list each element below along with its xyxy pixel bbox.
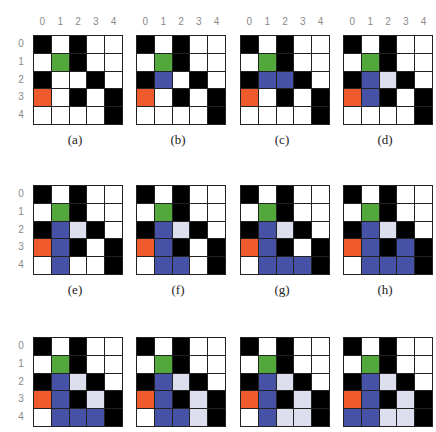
open-cell bbox=[259, 36, 276, 53]
open-cell bbox=[87, 356, 104, 373]
open-cell bbox=[294, 36, 311, 53]
row-label: 1 bbox=[15, 358, 27, 369]
column-label: 3 bbox=[190, 16, 207, 27]
visited-cell bbox=[362, 409, 379, 426]
visited-cell bbox=[87, 409, 104, 426]
open-cell bbox=[362, 338, 379, 355]
wall-cell bbox=[173, 239, 190, 256]
grid-panel-e bbox=[33, 185, 123, 275]
open-cell bbox=[52, 186, 69, 203]
wall-cell bbox=[87, 72, 104, 89]
row-label: 2 bbox=[15, 376, 27, 387]
open-cell bbox=[52, 89, 69, 106]
wall-cell bbox=[173, 186, 190, 203]
panel-caption: (f) bbox=[136, 282, 220, 298]
start-cell bbox=[259, 356, 276, 373]
goal-cell bbox=[241, 239, 258, 256]
wall-cell bbox=[415, 107, 432, 124]
grid-panel-h bbox=[343, 185, 433, 275]
open-cell bbox=[87, 36, 104, 53]
column-label: 1 bbox=[52, 16, 69, 27]
wall-cell bbox=[380, 186, 397, 203]
open-cell bbox=[190, 257, 207, 274]
column-label: 4 bbox=[208, 16, 225, 27]
open-cell bbox=[87, 186, 104, 203]
wall-cell bbox=[173, 356, 190, 373]
column-label: 3 bbox=[294, 16, 311, 27]
row-label: 2 bbox=[15, 74, 27, 85]
wall-cell bbox=[34, 72, 51, 89]
grid-panel-d bbox=[343, 35, 433, 125]
visited-cell bbox=[259, 409, 276, 426]
frontier-cell bbox=[380, 72, 397, 89]
start-cell bbox=[52, 356, 69, 373]
panel-caption: (c) bbox=[240, 132, 324, 148]
wall-cell bbox=[397, 222, 414, 239]
wall-cell bbox=[415, 239, 432, 256]
wall-cell bbox=[70, 186, 87, 203]
start-cell bbox=[259, 54, 276, 71]
wall-cell bbox=[105, 107, 122, 124]
wall-cell bbox=[380, 54, 397, 71]
open-cell bbox=[105, 72, 122, 89]
open-cell bbox=[208, 72, 225, 89]
open-cell bbox=[294, 54, 311, 71]
open-cell bbox=[87, 107, 104, 124]
open-cell bbox=[415, 204, 432, 221]
open-cell bbox=[312, 222, 329, 239]
open-cell bbox=[241, 204, 258, 221]
wall-cell bbox=[344, 222, 361, 239]
wall-cell bbox=[344, 72, 361, 89]
wall-cell bbox=[70, 338, 87, 355]
wall-cell bbox=[190, 222, 207, 239]
wall-cell bbox=[105, 89, 122, 106]
visited-cell bbox=[155, 409, 172, 426]
start-cell bbox=[362, 356, 379, 373]
wall-cell bbox=[415, 89, 432, 106]
wall-cell bbox=[105, 391, 122, 408]
open-cell bbox=[312, 374, 329, 391]
open-cell bbox=[259, 186, 276, 203]
wall-cell bbox=[208, 107, 225, 124]
column-label: 0 bbox=[241, 16, 258, 27]
wall-cell bbox=[105, 239, 122, 256]
goal-cell bbox=[137, 239, 154, 256]
frontier-cell bbox=[87, 391, 104, 408]
wall-cell bbox=[34, 36, 51, 53]
open-cell bbox=[52, 338, 69, 355]
visited-cell bbox=[155, 391, 172, 408]
open-cell bbox=[397, 36, 414, 53]
panel-caption: (e) bbox=[33, 282, 117, 298]
visited-cell bbox=[294, 257, 311, 274]
frontier-cell bbox=[277, 374, 294, 391]
open-cell bbox=[70, 257, 87, 274]
row-label: 1 bbox=[15, 206, 27, 217]
frontier-cell bbox=[173, 374, 190, 391]
open-cell bbox=[415, 54, 432, 71]
wall-cell bbox=[415, 391, 432, 408]
panel-caption: (h) bbox=[343, 282, 427, 298]
open-cell bbox=[294, 356, 311, 373]
visited-cell bbox=[397, 239, 414, 256]
wall-cell bbox=[415, 257, 432, 274]
goal-cell bbox=[241, 89, 258, 106]
wall-cell bbox=[208, 391, 225, 408]
goal-cell bbox=[34, 89, 51, 106]
open-cell bbox=[190, 36, 207, 53]
open-cell bbox=[294, 204, 311, 221]
open-cell bbox=[87, 89, 104, 106]
wall-cell bbox=[344, 186, 361, 203]
start-cell bbox=[155, 356, 172, 373]
column-label: 0 bbox=[344, 16, 361, 27]
open-cell bbox=[312, 186, 329, 203]
open-cell bbox=[344, 54, 361, 71]
row-label: 0 bbox=[15, 340, 27, 351]
wall-cell bbox=[70, 356, 87, 373]
open-cell bbox=[34, 54, 51, 71]
wall-cell bbox=[241, 36, 258, 53]
open-cell bbox=[259, 107, 276, 124]
wall-cell bbox=[190, 72, 207, 89]
frontier-cell bbox=[173, 222, 190, 239]
open-cell bbox=[415, 186, 432, 203]
goal-cell bbox=[241, 391, 258, 408]
